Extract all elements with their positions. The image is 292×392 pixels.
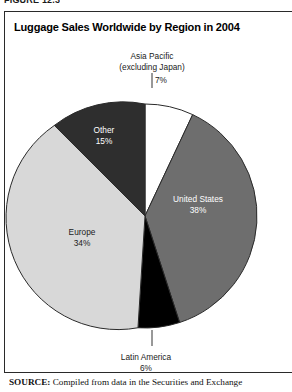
slice-label-latin-america-value: 6%: [91, 363, 201, 374]
slice-label-asia-pacific-line2: (excluding Japan): [97, 62, 207, 73]
slice-label-europe-value: 34%: [39, 238, 125, 249]
figure-page: FIGURE 12.3 Luggage Sales Worldwide by R…: [0, 0, 292, 392]
slice-label-other-name: Other: [67, 125, 141, 136]
slice-label-other: Other 15%: [67, 125, 141, 146]
slice-label-asia-pacific-line1: Asia Pacific: [97, 51, 207, 62]
source-note: SOURCE: Compiled from data in the Securi…: [9, 377, 292, 388]
slice-label-united-states-value: 38%: [155, 205, 241, 216]
slice-label-united-states-name: United States: [155, 194, 241, 205]
figure-number: FIGURE 12.3: [4, 0, 60, 4]
source-note-prefix: SOURCE:: [9, 377, 50, 387]
slice-label-united-states: United States 38%: [155, 194, 241, 215]
slice-label-latin-america: Latin America 6%: [91, 352, 201, 373]
source-note-text: Compiled from data in the Securities and…: [50, 377, 242, 387]
slice-label-europe: Europe 34%: [39, 227, 125, 248]
slice-label-asia-pacific-value: 7%: [155, 75, 185, 86]
slice-label-other-value: 15%: [67, 136, 141, 147]
figure-box: Luggage Sales Worldwide by Region in 200…: [4, 11, 292, 373]
pie-chart: Asia Pacific (excluding Japan) United St…: [5, 12, 292, 373]
slice-label-latin-america-name: Latin America: [91, 352, 201, 363]
slice-label-europe-name: Europe: [39, 227, 125, 238]
slice-label-asia-pacific: Asia Pacific (excluding Japan): [97, 51, 207, 72]
